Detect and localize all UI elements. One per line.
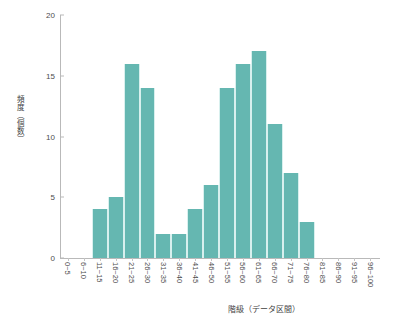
- bar-slot: [60, 15, 76, 258]
- x-tick-mark: [322, 258, 323, 261]
- x-tick-label: 16~20: [111, 262, 120, 283]
- x-tick-mark: [147, 258, 148, 261]
- x-tick-mark: [68, 258, 69, 261]
- x-tick-label: 96~100: [366, 262, 375, 287]
- bar-slot: [171, 15, 187, 258]
- x-tick-mark: [338, 258, 339, 261]
- x-tick-label: 71~75: [286, 262, 295, 283]
- bar-slot: [92, 15, 108, 258]
- x-tick-label: 81~85: [318, 262, 327, 283]
- histogram-bar: [235, 64, 251, 258]
- bar-slot: [251, 15, 267, 258]
- x-tick-slot: 21~25: [124, 261, 140, 301]
- x-tick-label: 66~70: [270, 262, 279, 283]
- x-axis-ticks: 0~56~1011~1516~2021~2526~3031~3536~4041~…: [60, 261, 378, 301]
- x-tick-mark: [132, 258, 133, 261]
- histogram-bar: [251, 51, 267, 258]
- x-tick-slot: 0~5: [60, 261, 76, 301]
- x-axis-title: 階級（データ区間）: [0, 303, 300, 314]
- x-tick-mark: [370, 258, 371, 261]
- x-tick-label: 36~40: [175, 262, 184, 283]
- y-tick-label: 10: [46, 132, 60, 141]
- x-tick-label: 86~90: [334, 262, 343, 283]
- bar-slot: [124, 15, 140, 258]
- x-tick-label: 56~60: [238, 262, 247, 283]
- bar-slot: [330, 15, 346, 258]
- histogram-bar: [267, 124, 283, 258]
- x-tick-slot: 36~40: [171, 261, 187, 301]
- y-axis-title: 頻度（個数）: [6, 95, 24, 143]
- bar-slot: [108, 15, 124, 258]
- x-tick-slot: 26~30: [140, 261, 156, 301]
- x-tick-label: 31~35: [159, 262, 168, 283]
- bar-series: [60, 15, 378, 258]
- x-tick-mark: [259, 258, 260, 261]
- histogram-bar: [140, 88, 156, 258]
- bar-slot: [187, 15, 203, 258]
- x-tick-label: 61~65: [254, 262, 263, 283]
- bar-slot: [235, 15, 251, 258]
- x-tick-slot: 41~45: [187, 261, 203, 301]
- x-tick-mark: [195, 258, 196, 261]
- x-tick-label: 11~15: [95, 262, 104, 283]
- x-tick-label: 26~30: [143, 262, 152, 283]
- x-tick-label: 21~25: [127, 262, 136, 283]
- histogram-bar: [283, 173, 299, 258]
- x-tick-mark: [227, 258, 228, 261]
- x-tick-label: 91~95: [350, 262, 359, 283]
- bar-slot: [362, 15, 378, 258]
- x-tick-slot: 56~60: [235, 261, 251, 301]
- x-tick-slot: 81~85: [315, 261, 331, 301]
- x-tick-slot: 96~100: [362, 261, 378, 301]
- x-tick-slot: 31~35: [155, 261, 171, 301]
- x-tick-slot: 66~70: [267, 261, 283, 301]
- bar-slot: [315, 15, 331, 258]
- x-tick-mark: [84, 258, 85, 261]
- histogram-bar: [299, 222, 315, 258]
- y-tick-label: 15: [46, 71, 60, 80]
- bar-slot: [267, 15, 283, 258]
- x-tick-mark: [354, 258, 355, 261]
- x-tick-mark: [163, 258, 164, 261]
- x-tick-slot: 76~80: [299, 261, 315, 301]
- histogram-bar: [92, 209, 108, 258]
- bar-slot: [346, 15, 362, 258]
- x-tick-slot: 46~50: [203, 261, 219, 301]
- y-tick-label: 5: [51, 193, 60, 202]
- x-tick-mark: [275, 258, 276, 261]
- bar-slot: [203, 15, 219, 258]
- histogram-bar: [219, 88, 235, 258]
- histogram-bar: [124, 64, 140, 258]
- x-tick-label: 76~80: [302, 262, 311, 283]
- bar-slot: [299, 15, 315, 258]
- bar-slot: [283, 15, 299, 258]
- histogram-bar: [155, 234, 171, 258]
- plot-area: 05101520: [60, 15, 378, 258]
- bar-slot: [76, 15, 92, 258]
- histogram-bar: [171, 234, 187, 258]
- x-tick-mark: [307, 258, 308, 261]
- x-tick-slot: 91~95: [346, 261, 362, 301]
- bar-slot: [140, 15, 156, 258]
- x-tick-slot: 16~20: [108, 261, 124, 301]
- x-axis-line: [60, 258, 380, 259]
- x-tick-label: 0~5: [63, 262, 72, 275]
- x-tick-slot: 6~10: [76, 261, 92, 301]
- x-tick-slot: 51~55: [219, 261, 235, 301]
- x-tick-label: 51~55: [223, 262, 232, 283]
- histogram-bar: [203, 185, 219, 258]
- x-tick-mark: [116, 258, 117, 261]
- x-tick-slot: 61~65: [251, 261, 267, 301]
- histogram-bar: [187, 209, 203, 258]
- y-tick-label: 0: [51, 254, 60, 263]
- histogram-bar: [108, 197, 124, 258]
- x-tick-mark: [211, 258, 212, 261]
- bar-slot: [219, 15, 235, 258]
- x-tick-label: 6~10: [79, 262, 88, 279]
- x-tick-slot: 11~15: [92, 261, 108, 301]
- histogram-chart: 頻度（個数） 05101520 0~56~1011~1516~2021~2526…: [0, 0, 395, 323]
- x-tick-mark: [291, 258, 292, 261]
- x-tick-mark: [243, 258, 244, 261]
- x-tick-slot: 71~75: [283, 261, 299, 301]
- y-tick-label: 20: [46, 11, 60, 20]
